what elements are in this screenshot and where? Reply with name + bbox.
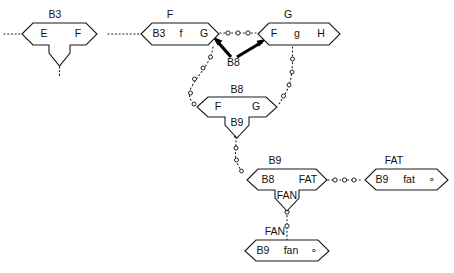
node-b3-left-toplabel: B3: [49, 8, 62, 20]
diagram-svg: B8 B3 E F: [0, 0, 454, 273]
node-b3-left[interactable]: B3 E F: [22, 8, 97, 66]
node-b9-fat[interactable]: B9 B8 FAT FAN: [247, 154, 327, 211]
node-fat-right-cell-2: ∘: [429, 173, 436, 185]
node-f-bcfg-cell-0: B3: [153, 27, 166, 39]
node-f-bcfg-cell-2: G: [200, 27, 208, 39]
edge-b8-arrows: [213, 37, 267, 58]
node-fan-bottom-cell-0: B9: [257, 244, 270, 256]
arrow-label-b8: B8: [227, 56, 240, 68]
node-fat-right-toplabel: FAT: [385, 154, 404, 166]
diagram-canvas: B8 B3 E F: [0, 0, 454, 273]
edge-f-to-g-rings: [226, 31, 250, 35]
node-g-fgh-cell-1: g: [294, 27, 300, 39]
node-g-fgh[interactable]: G F g H: [258, 8, 340, 45]
node-f-bcfg-cell-1: f: [180, 27, 183, 39]
node-b8-mid-toplabel: B8: [231, 83, 244, 95]
node-b8-mid-cell-1: G: [252, 100, 260, 112]
node-b8-mid-cell-0: F: [215, 100, 221, 112]
node-fan-bottom-cell-1: fan: [284, 244, 299, 256]
node-b9-fat-cell-0: B8: [262, 173, 275, 185]
node-g-fgh-toplabel: G: [284, 8, 292, 20]
node-g-fgh-cell-2: H: [317, 27, 325, 39]
node-fan-bottom-toplabel: FAN: [265, 225, 285, 237]
node-b3-left-cell-1: F: [75, 27, 81, 39]
node-f-bcfg-toplabel: F: [167, 8, 173, 20]
node-b9-fat-notch-label: FAN: [277, 189, 297, 201]
edge-fat-to-b9-rings: [333, 178, 356, 182]
node-b3-left-cell-0: E: [40, 27, 47, 39]
node-fan-bottom[interactable]: FAN B9 fan ∘: [245, 225, 329, 261]
node-fan-bottom-cell-2: ∘: [311, 244, 318, 256]
node-b8-mid-notch-label: B9: [231, 116, 244, 128]
node-b8-mid[interactable]: B8 F G B9: [197, 83, 277, 138]
node-fat-right[interactable]: FAT B9 fat ∘: [365, 154, 448, 190]
node-b9-fat-toplabel: B9: [269, 154, 282, 166]
node-b9-fat-cell-1: FAT: [299, 173, 318, 185]
node-fat-right-cell-0: B9: [376, 173, 389, 185]
node-g-fgh-cell-0: F: [271, 27, 277, 39]
node-fat-right-cell-1: fat: [403, 173, 415, 185]
node-f-bcfg[interactable]: F B3 f G: [141, 8, 219, 45]
